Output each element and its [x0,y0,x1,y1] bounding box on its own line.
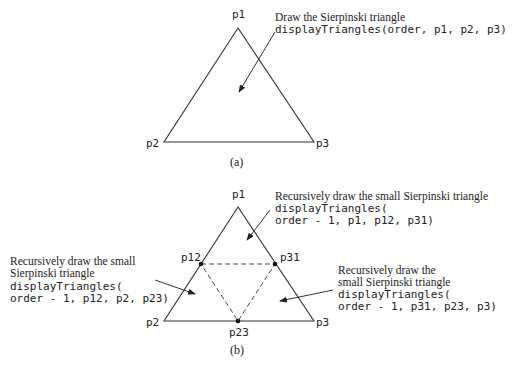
caption-a: (a) [230,155,243,169]
sierpinski-diagram: p1 p2 p3 Draw the Sierpinski triangle di… [0,0,512,370]
inner-triangle-b [201,264,275,321]
panel-a: p1 p2 p3 Draw the Sierpinski triangle di… [146,8,507,169]
annotation-top-line3: order - 1, p1, p12, p31) [275,214,434,227]
vertex-label-p1-a: p1 [232,8,245,21]
vertex-label-p3-a: p3 [316,137,329,150]
annotation-right-line4: order - 1, p31, p23, p3) [338,300,497,313]
annotation-a-line2: displayTriangles(order, p1, p2, p3) [275,23,507,36]
midpoint-p23 [236,319,241,324]
midpoint-p31 [273,262,278,267]
vertex-label-p12: p12 [181,251,201,264]
vertex-label-p1-b: p1 [232,188,245,201]
vertex-label-p2-a: p2 [146,137,159,150]
annotation-left-line4: order - 1, p12, p2, p23) [10,292,169,305]
vertex-label-p2-b: p2 [146,316,159,329]
panel-b: p1 p2 p3 p12 p31 p23 Recursively draw th… [10,188,497,357]
vertex-label-p3-b: p3 [316,316,329,329]
triangle-a [164,28,314,142]
vertex-label-p31: p31 [280,251,300,264]
arrow-right-b [280,290,333,301]
vertex-label-p23: p23 [229,326,249,339]
caption-b: (b) [230,343,244,357]
arrow-a [239,32,275,92]
annotation-left-line2: Sierpinski triangle [10,267,95,280]
